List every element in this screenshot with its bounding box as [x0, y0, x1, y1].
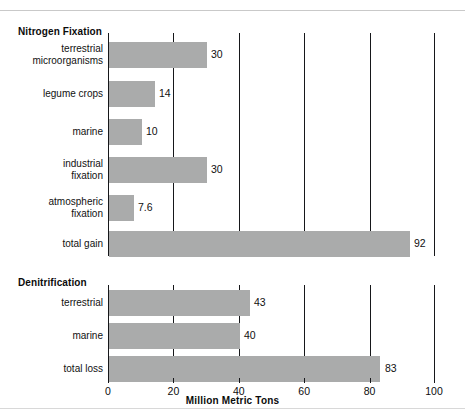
top-divider-rule	[0, 10, 465, 11]
panel-title-nitrogen-fixation: Nitrogen Fixation	[18, 26, 102, 37]
x-axis-title: Million Metric Tons	[0, 395, 465, 406]
bar-industrial-fixation: industrial fixation	[109, 157, 207, 183]
panel-denitrification: Denitrification terrestrial 43 marine 40…	[0, 276, 465, 386]
value-label-total-gain: 92	[414, 238, 426, 249]
chart-figure: Nitrogen Fixation terrestrial microorgan…	[0, 0, 465, 415]
value-label-marine-fixation: 10	[146, 126, 158, 137]
plot-area-lower: terrestrial 43 marine 40 total loss 83	[108, 285, 435, 378]
plot-area-upper: terrestrial microorganisms 30 legume cro…	[108, 33, 435, 256]
value-label-terrestrial-denitrification: 43	[254, 297, 266, 308]
x-tick-0	[108, 378, 109, 383]
gridline-40-upper	[239, 33, 240, 256]
x-tick-20	[173, 378, 174, 383]
category-label-total-loss: total loss	[0, 363, 103, 375]
bar-legume-crops: legume crops	[109, 81, 155, 107]
gridline-80-upper	[370, 33, 371, 256]
x-tick-40	[239, 378, 240, 383]
category-label-industrial-fixation: industrial fixation	[0, 158, 103, 181]
bar-terrestrial-microorganisms: terrestrial microorganisms	[109, 42, 207, 68]
category-label-legume-crops: legume crops	[0, 88, 103, 100]
bar-marine-denitrification: marine	[109, 323, 240, 349]
category-label-terrestrial-microorganisms: terrestrial microorganisms	[0, 43, 103, 66]
x-axis-upper: 0 20 40 60 80 100	[108, 378, 435, 379]
category-label-marine-fixation: marine	[0, 126, 103, 138]
category-label-atmospheric-fixation: atmospheric fixation	[0, 196, 103, 219]
gridline-100-upper	[434, 33, 435, 256]
value-label-atmospheric-fixation: 7.6	[138, 202, 153, 213]
value-label-marine-denitrification: 40	[244, 330, 256, 341]
x-tick-100	[434, 378, 435, 383]
panel-title-denitrification: Denitrification	[18, 277, 87, 288]
bar-atmospheric-fixation: atmospheric fixation	[109, 195, 134, 221]
value-label-total-loss: 83	[385, 363, 397, 374]
x-tick-80	[370, 378, 371, 383]
category-label-marine-denitrification: marine	[0, 330, 103, 342]
bar-terrestrial-denitrification: terrestrial	[109, 290, 250, 316]
value-label-terrestrial-microorganisms: 30	[211, 49, 223, 60]
category-label-total-gain: total gain	[0, 238, 103, 250]
x-tick-60	[304, 378, 305, 383]
gridline-60-upper	[304, 33, 305, 256]
value-label-industrial-fixation: 30	[211, 164, 223, 175]
category-label-terrestrial-denitrification: terrestrial	[0, 297, 103, 309]
gridline-100-lower	[434, 285, 435, 378]
bar-marine-fixation: marine	[109, 119, 142, 145]
panel-nitrogen-fixation: Nitrogen Fixation terrestrial microorgan…	[0, 25, 465, 253]
bar-total-gain: total gain	[109, 231, 410, 257]
bottom-divider-rule	[0, 408, 465, 409]
value-label-legume-crops: 14	[159, 88, 171, 99]
